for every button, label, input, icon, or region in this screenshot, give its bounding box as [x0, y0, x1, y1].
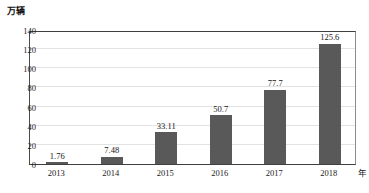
y-axis-unit-label: 万辆 [7, 4, 25, 17]
bar-value-label: 50.7 [213, 105, 228, 114]
bar[interactable] [46, 162, 68, 164]
bar-slot: 7.48 [85, 32, 140, 164]
x-tick-label: 2018 [320, 169, 337, 178]
bar[interactable] [264, 90, 286, 164]
bar-value-label: 125.6 [320, 33, 339, 42]
bar-value-label: 7.48 [104, 146, 119, 155]
plot-area: 1.767.4833.1150.777.7125.6 [29, 31, 356, 165]
x-tick-label: 2013 [48, 169, 65, 178]
bar-slot: 125.6 [303, 32, 358, 164]
x-tick-label: 2015 [157, 169, 174, 178]
x-tick-label: 2017 [266, 169, 283, 178]
bar-value-label: 33.11 [157, 122, 176, 131]
y-tick-label: 0 [2, 161, 36, 170]
y-tick-label: 60 [2, 103, 36, 112]
x-tick-label: 2016 [211, 169, 228, 178]
y-tick-label: 20 [2, 142, 36, 151]
bar-slot: 1.76 [30, 32, 85, 164]
bar[interactable] [101, 157, 123, 164]
y-tick-label: 140 [2, 27, 36, 36]
chart-figure: 万辆 1.767.4833.1150.777.7125.6 0204060801… [0, 0, 369, 193]
y-tick-label: 40 [2, 122, 36, 131]
bar[interactable] [319, 44, 341, 164]
bar-slot: 77.7 [248, 32, 303, 164]
y-tick-label: 80 [2, 84, 36, 93]
bar[interactable] [210, 115, 232, 164]
bar-value-label: 1.76 [50, 152, 65, 161]
y-tick-label: 120 [2, 46, 36, 55]
x-tick-label: 2014 [102, 169, 119, 178]
bar[interactable] [155, 132, 177, 164]
x-axis-unit-label: 年 [358, 169, 367, 178]
bar-value-label: 77.7 [268, 79, 283, 88]
bar-slot: 33.11 [139, 32, 194, 164]
bar-slot: 50.7 [194, 32, 249, 164]
y-tick-label: 100 [2, 65, 36, 74]
